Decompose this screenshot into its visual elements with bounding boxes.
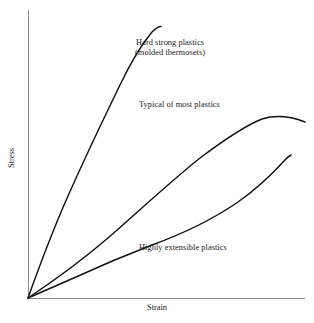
y-axis-label-wrapper: Stress <box>2 128 20 188</box>
annotation-hard-strong-line1: Hard strong plastics <box>135 38 205 48</box>
x-axis-label: Strain <box>0 303 314 312</box>
stress-strain-figure: Hard strong plastics (molded thermosets)… <box>0 0 314 323</box>
curve-typical-plastics <box>28 116 305 298</box>
annotation-typical-plastics: Typical of most plastics <box>139 100 220 110</box>
curve-highly-extensible-plastics <box>28 155 291 298</box>
annotation-highly-extensible-plastics: Highly extensible plastics <box>139 243 227 253</box>
y-axis-label: Stress <box>7 148 16 168</box>
annotation-hard-strong-line2: (molded thermosets) <box>135 48 205 58</box>
curve-hard-strong-plastics <box>28 27 161 299</box>
annotation-hard-strong-plastics: Hard strong plastics (molded thermosets) <box>135 38 205 59</box>
